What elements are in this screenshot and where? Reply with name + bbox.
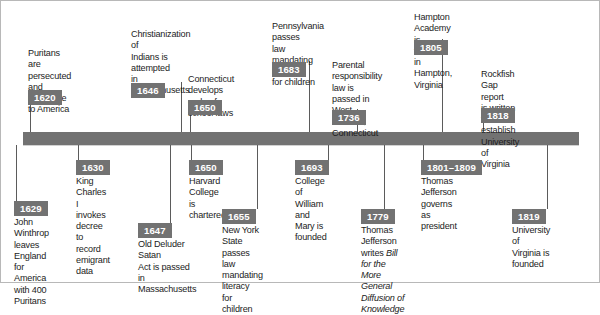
event-description: Old Deluder Satan Act is passed in Massa… — [138, 239, 196, 295]
event-leader-line — [16, 145, 17, 201]
event-leader-line — [78, 145, 79, 160]
event-year-badge[interactable]: 1650 — [189, 160, 223, 175]
event-year-badge[interactable]: 1818 — [481, 108, 515, 123]
event-year-badge[interactable]: 1779 — [361, 209, 395, 224]
event-description: Pennsylvania passes law mandating litera… — [272, 21, 324, 89]
event-leader-line — [328, 145, 329, 160]
event-year-badge[interactable]: 1683 — [272, 62, 306, 77]
event-description: King Charles I invokes decree to record … — [76, 176, 110, 278]
event-description: University of Virginia is founded — [512, 225, 550, 270]
event-year-badge[interactable]: 1736 — [332, 110, 366, 125]
event-year-badge[interactable]: 1620 — [28, 90, 62, 105]
event-year-badge[interactable]: 1801–1809 — [421, 160, 482, 175]
event-description: New York State passes law mandating lite… — [222, 225, 263, 315]
event-year-badge[interactable]: 1629 — [14, 201, 48, 216]
event-description: John Winthrop leaves England for America… — [14, 217, 49, 307]
event-description: Thomas Jefferson writes Bill for the Mor… — [361, 225, 404, 315]
event-year-badge[interactable]: 1650 — [188, 100, 222, 115]
event-leader-line — [384, 145, 385, 209]
event-description: College of William and Mary is founded — [295, 176, 327, 244]
event-year-badge[interactable]: 1819 — [512, 209, 546, 224]
event-year-badge[interactable]: 1647 — [138, 223, 172, 238]
event-leader-line — [170, 145, 171, 223]
event-year-badge[interactable]: 1646 — [131, 83, 165, 98]
event-description: Thomas Jefferson governs as president — [421, 176, 457, 232]
event-leader-line — [423, 145, 424, 160]
event-description: Puritans are persecuted and immigrate to… — [28, 48, 71, 116]
event-year-badge[interactable]: 1630 — [76, 160, 110, 175]
event-year-badge[interactable]: 1693 — [295, 160, 329, 175]
event-leader-line — [257, 145, 258, 209]
event-leader-line — [547, 145, 548, 209]
event-year-badge[interactable]: 1655 — [222, 209, 256, 224]
event-leader-line — [191, 145, 192, 160]
event-description: Parental responsibility law is passed in… — [332, 60, 382, 139]
event-year-badge[interactable]: 1805 — [414, 40, 448, 55]
event-description: Harvard College is chartered — [189, 176, 226, 221]
